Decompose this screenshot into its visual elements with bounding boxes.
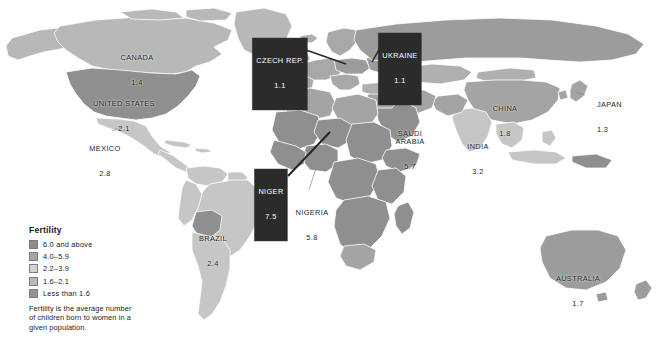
legend-swatch-4 xyxy=(29,289,38,298)
legend-label-3: 1.6–2.1 xyxy=(43,277,69,286)
country-horn-of-africa xyxy=(382,148,420,172)
country-east-africa xyxy=(372,168,406,204)
country-korea xyxy=(558,90,568,100)
country-new-guinea xyxy=(572,154,612,168)
country-tasmania xyxy=(596,292,608,302)
fertility-map-figure: CANADA 1.4 UNITED STATES 2.1 MEXICO 2.8 … xyxy=(0,0,668,362)
legend-item-4: Less than 1.6 xyxy=(29,288,179,300)
map-legend: Fertility 6.0 and above 4.0–5.9 2.2–3.9 … xyxy=(29,225,179,332)
callout-czech-republic-name: CZECH REP. xyxy=(256,57,303,66)
callout-niger-name: NIGER xyxy=(258,188,283,197)
legend-swatch-0 xyxy=(29,240,38,249)
country-central-america xyxy=(158,150,190,172)
callout-czech-republic-value: 1.1 xyxy=(256,82,303,91)
callout-niger-value: 7.5 xyxy=(258,213,283,222)
legend-label-4: Less than 1.6 xyxy=(43,289,90,298)
country-scandinavia xyxy=(326,28,358,56)
legend-item-1: 4.0–5.9 xyxy=(29,250,179,262)
country-hispaniola xyxy=(195,148,212,153)
legend-label-0: 6.0 and above xyxy=(43,240,92,249)
callout-ukraine-name: UKRAINE xyxy=(382,52,417,61)
legend-note: Fertility is the average number of child… xyxy=(29,304,133,332)
legend-swatch-1 xyxy=(29,252,38,261)
legend-item-3: 1.6–2.1 xyxy=(29,275,179,287)
country-southeast-asia xyxy=(496,122,524,148)
legend-label-1: 4.0–5.9 xyxy=(43,252,69,261)
country-central-europe xyxy=(334,58,370,74)
callout-czech-republic: CZECH REP. 1.1 xyxy=(252,38,307,110)
country-chile-argentina xyxy=(192,232,230,320)
legend-title: Fertility xyxy=(29,225,179,235)
legend-swatch-3 xyxy=(29,277,38,286)
country-italy-balkans xyxy=(330,74,360,90)
country-madagascar xyxy=(394,202,414,234)
country-indonesia xyxy=(508,150,566,164)
country-canada xyxy=(54,17,232,74)
country-australia xyxy=(540,230,626,290)
callout-niger: NIGER 7.5 xyxy=(254,169,287,241)
country-new-zealand xyxy=(634,280,652,300)
legend-label-2: 2.2–3.9 xyxy=(43,264,69,273)
country-canada-arctic-2 xyxy=(186,8,232,21)
country-south-africa xyxy=(340,244,376,270)
callout-ukraine-value: 1.1 xyxy=(382,77,417,86)
legend-item-0: 6.0 and above xyxy=(29,238,179,250)
callout-ukraine: UKRAINE 1.1 xyxy=(378,33,421,105)
legend-swatch-2 xyxy=(29,264,38,273)
country-united-states xyxy=(66,68,200,120)
country-philippines xyxy=(542,130,556,146)
legend-item-2: 2.2–3.9 xyxy=(29,263,179,275)
country-japan xyxy=(570,80,588,102)
country-india xyxy=(452,108,492,152)
country-cuba xyxy=(164,140,192,148)
